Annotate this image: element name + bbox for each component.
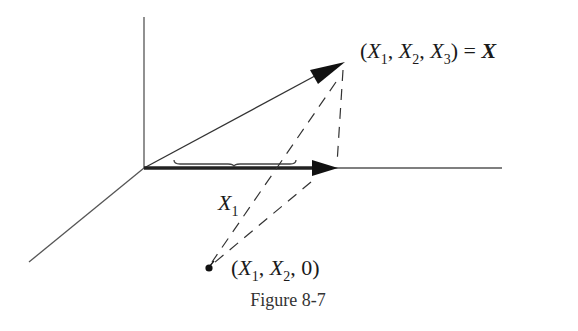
vector-x	[144, 62, 345, 168]
dashed-line-vertical	[337, 70, 343, 164]
component-label: X1	[217, 190, 238, 219]
projection-point	[205, 261, 214, 272]
projection-label: (X1, X2, 0)	[231, 255, 320, 284]
figure-caption: Figure 8-7	[250, 290, 326, 310]
component-arrowhead-icon	[312, 160, 338, 176]
vector-label: (X1, X2, X3) = X	[360, 38, 497, 67]
component-vector-x1	[144, 160, 338, 176]
depth-axis	[29, 168, 144, 262]
vector-projection-diagram: (X1, X2, X3) = X X1 (X1, X2, 0) Figure 8…	[0, 0, 578, 331]
vector-x-arrowhead-icon	[310, 62, 345, 84]
point-dot-icon	[205, 264, 212, 271]
